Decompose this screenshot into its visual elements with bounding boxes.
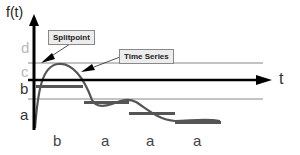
segment-label-2: a	[101, 132, 109, 149]
splitpoint-callout: Splitpoint	[48, 30, 95, 45]
y-axis-arrowhead-icon	[29, 14, 39, 26]
y-axis-label: f(t)	[6, 4, 23, 20]
segment-label-4: a	[193, 132, 201, 149]
time-series-curve	[35, 64, 220, 128]
level-label-c: c	[21, 63, 29, 80]
x-axis-label: t	[279, 70, 283, 88]
segment-label-3: a	[146, 132, 154, 149]
level-label-b: b	[20, 80, 28, 97]
segment-bar-1	[36, 85, 83, 88]
x-axis-arrowhead-icon	[256, 75, 272, 85]
segment-label-1: b	[53, 132, 61, 149]
time-series-callout: Time Series	[119, 49, 174, 64]
level-label-a: a	[20, 106, 28, 123]
level-label-d: d	[21, 39, 29, 56]
timeseries-pointer-line	[94, 57, 120, 67]
timeseries-arrow-icon	[81, 64, 95, 72]
splitpoint-arrow-icon	[41, 53, 55, 63]
